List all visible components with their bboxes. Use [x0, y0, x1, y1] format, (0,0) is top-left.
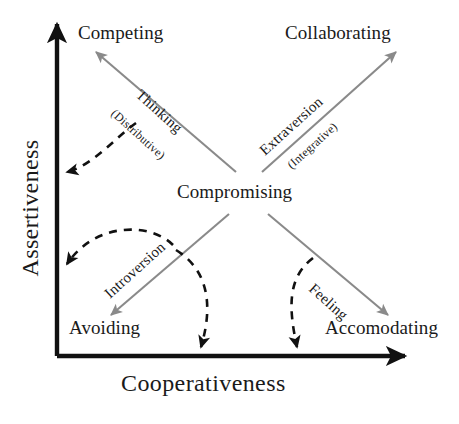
x-axis-label: Cooperativeness: [121, 371, 286, 395]
conflict-styles-diagram: Competing Collaborating Compromising Avo…: [0, 0, 459, 424]
node-label-competing: Competing: [78, 23, 163, 42]
arrow-extraversion: [262, 52, 396, 172]
node-label-avoiding: Avoiding: [69, 318, 140, 337]
diagram-canvas: [0, 0, 459, 424]
dashed-arcs: [67, 123, 313, 347]
arc-introversion-to-x-axis: [176, 250, 207, 347]
arc-feeling-to-x-axis: [292, 258, 313, 347]
node-label-collaborating: Collaborating: [285, 23, 391, 42]
node-label-compromising: Compromising: [177, 182, 292, 201]
y-axis-label: Assertiveness: [18, 128, 42, 288]
